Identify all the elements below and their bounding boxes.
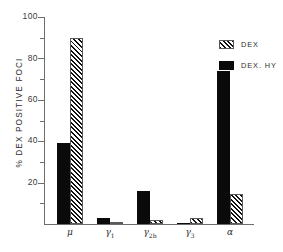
y-tick-80 [38, 58, 44, 59]
y-tick-50 [40, 121, 44, 122]
hatched-swatch-icon [219, 40, 234, 49]
chart-legend: DEX DEX. HY [219, 36, 283, 78]
bar-dex-alpha [230, 194, 243, 224]
bar-dex-hy-gamma2b [137, 191, 150, 224]
bar-group-gamma1 [97, 17, 123, 224]
x-tick-label-mu: μ [50, 227, 90, 239]
bar-dex-hy-gamma1 [97, 218, 110, 224]
bar-dex-hy-alpha [217, 71, 230, 224]
x-label-base-alpha: α [227, 227, 233, 237]
x-tick-label-gamma1: γ1 [90, 227, 130, 239]
y-tick-label-60: 60 [12, 95, 38, 103]
y-tick-60 [38, 100, 44, 101]
bar-dex-gamma2b [150, 220, 163, 224]
bar-dex-hy-mu [57, 143, 70, 224]
legend-item-dex-hy: DEX. HY [219, 57, 283, 73]
x-tick-label-gamma3: γ3 [170, 227, 210, 239]
bar-dex-hy-gamma3 [177, 223, 190, 224]
x-axis-line [44, 224, 254, 225]
bar-group-mu [57, 17, 83, 224]
legend-item-dex: DEX [219, 36, 283, 52]
y-tick-30 [40, 162, 44, 163]
x-label-base-mu: μ [67, 227, 73, 237]
y-tick-70 [40, 79, 44, 80]
x-label-sub-gamma3: 3 [191, 232, 195, 239]
bar-dex-gamma1 [110, 222, 123, 224]
x-tick-label-alpha: α [210, 227, 250, 239]
legend-label-dex: DEX [241, 40, 259, 49]
y-tick-labels: 100 80 60 40 20 [6, 0, 38, 252]
y-tick-10 [40, 203, 44, 204]
x-label-sub-gamma2b: 2b [149, 232, 157, 239]
solid-swatch-icon [219, 61, 234, 70]
x-label-sub-gamma1: 1 [111, 232, 115, 239]
bar-dex-mu [70, 38, 83, 224]
bar-group-gamma3 [177, 17, 203, 224]
y-tick-90 [40, 38, 44, 39]
x-tick-label-gamma2b: γ2b [130, 227, 170, 239]
y-tick-20 [38, 183, 44, 184]
bar-group-gamma2b [137, 17, 163, 224]
y-tick-100 [38, 17, 44, 18]
bar-dex-gamma3 [190, 218, 203, 224]
legend-label-dex-hy: DEX. HY [241, 61, 277, 70]
y-tick-40 [38, 141, 44, 142]
y-tick-label-100: 100 [12, 12, 38, 20]
bar-chart-figure: % DEX POSITIVE FOCI 100 80 60 40 20 [0, 0, 283, 252]
y-tick-label-80: 80 [12, 54, 38, 62]
y-tick-label-20: 20 [12, 178, 38, 186]
y-tick-label-40: 40 [12, 136, 38, 144]
